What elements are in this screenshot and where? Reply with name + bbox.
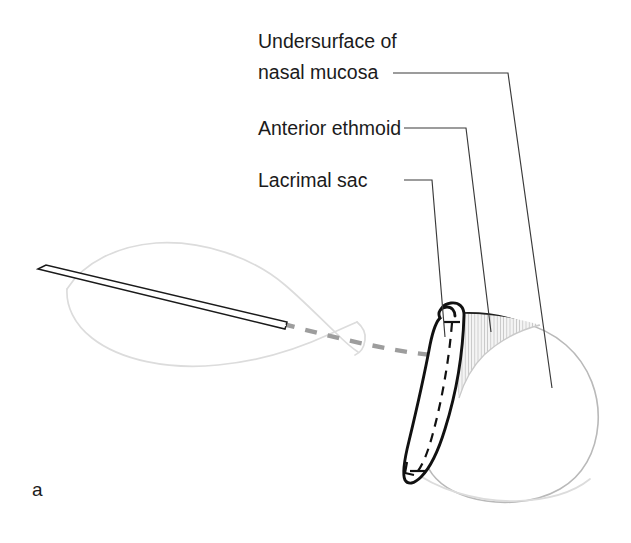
label-nasal-mucosa-line2: nasal mucosa: [258, 61, 378, 83]
label-nasal-mucosa-line1: Undersurface of: [258, 30, 397, 52]
figure-panel-a: Undersurface of nasal mucosa Anterior et…: [0, 0, 631, 543]
label-lacrimal-sac: Lacrimal sac: [258, 169, 368, 191]
label-nasal-mucosa: Undersurface of nasal mucosa: [258, 30, 397, 83]
panel-letter: a: [32, 479, 43, 500]
label-anterior-ethmoid: Anterior ethmoid: [258, 117, 401, 139]
leader-line-anterior-ethmoid: [404, 128, 491, 332]
anatomical-diagram: Undersurface of nasal mucosa Anterior et…: [0, 0, 631, 543]
